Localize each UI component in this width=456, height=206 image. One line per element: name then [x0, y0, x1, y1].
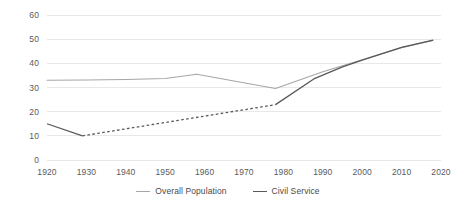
line-chart: 6050403020100 19201930194019501960197019… — [0, 0, 456, 206]
legend-swatch-icon — [253, 191, 267, 192]
x-tick-1980: 1980 — [263, 167, 303, 177]
series-overall-population — [47, 40, 433, 88]
y-tick-50: 50 — [17, 34, 39, 44]
y-tick-0: 0 — [17, 155, 39, 165]
x-tick-1940: 1940 — [106, 167, 146, 177]
legend-item-overall-population[interactable]: Overall Population — [136, 186, 226, 196]
line-civil-service-solid-early — [47, 124, 82, 136]
x-tick-2020: 2020 — [421, 167, 456, 177]
x-tick-2000: 2000 — [342, 167, 382, 177]
x-tick-1950: 1950 — [145, 167, 185, 177]
y-tick-60: 60 — [17, 10, 39, 20]
x-tick-1960: 1960 — [185, 167, 225, 177]
line-overall-population — [47, 40, 433, 88]
y-tick-10: 10 — [17, 131, 39, 141]
legend-label: Overall Population — [155, 186, 226, 196]
y-tick-30: 30 — [17, 83, 39, 93]
gridlines — [47, 15, 441, 160]
legend-item-civil-service[interactable]: Civil Service — [253, 186, 320, 196]
x-tick-1970: 1970 — [224, 167, 264, 177]
chart-legend: Overall PopulationCivil Service — [0, 186, 456, 196]
x-tick-1930: 1930 — [66, 167, 106, 177]
x-tick-1990: 1990 — [303, 167, 343, 177]
line-civil-service-solid-late — [276, 40, 434, 105]
y-tick-20: 20 — [17, 107, 39, 117]
legend-swatch-icon — [136, 191, 150, 192]
line-civil-service-dashed — [82, 105, 275, 136]
x-tick-1920: 1920 — [27, 167, 67, 177]
x-tick-2010: 2010 — [382, 167, 422, 177]
y-tick-40: 40 — [17, 58, 39, 68]
legend-label: Civil Service — [272, 186, 320, 196]
